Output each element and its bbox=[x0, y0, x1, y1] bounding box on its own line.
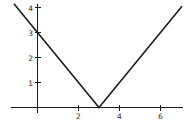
x-tick-label-4: 4 bbox=[117, 112, 122, 121]
chart-container: 2 4 6 1 2 3 4 bbox=[0, 0, 188, 123]
y-tick-label-2: 2 bbox=[28, 54, 33, 63]
x-tick-label-2: 2 bbox=[76, 112, 81, 121]
y-tick-label-1: 1 bbox=[28, 79, 33, 88]
x-tick-label-6: 6 bbox=[158, 112, 163, 121]
y-tick-label-4: 4 bbox=[28, 4, 33, 13]
data-series-absolute-value bbox=[14, 4, 182, 108]
y-tick-label-3: 3 bbox=[28, 29, 33, 38]
chart-canvas: 2 4 6 1 2 3 4 bbox=[0, 0, 188, 123]
